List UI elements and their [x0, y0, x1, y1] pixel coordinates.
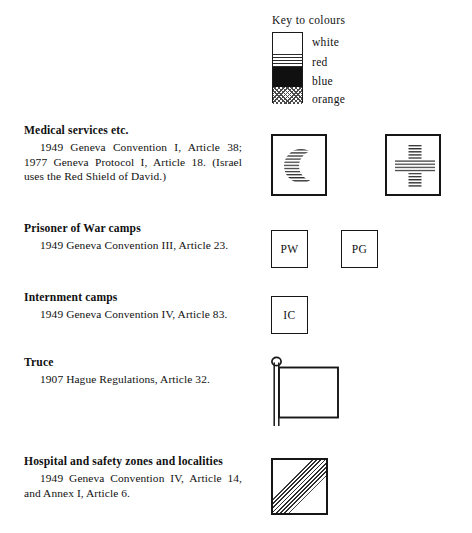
- entry-text-truce: Truce 1907 Hague Regulations, Article 32…: [24, 356, 242, 387]
- pg-marking: PG: [341, 230, 378, 268]
- key-title: Key to colours: [272, 14, 458, 26]
- diagonal-band-icon: [273, 460, 326, 513]
- hospital-zone-clip: [273, 460, 326, 513]
- key-to-colours: Key to colours white red blue orange: [268, 14, 458, 108]
- entry-citation: 1949 Geneva Convention III, Article 23.: [24, 238, 242, 253]
- pw-marking: PW: [271, 230, 308, 268]
- entry-heading: Prisoner of War camps: [24, 222, 242, 236]
- cross-icon: [395, 145, 435, 187]
- ic-marking: IC: [271, 296, 308, 334]
- entry-citation: 1949 Geneva Convention IV, Article 83.: [24, 307, 242, 322]
- key-swatch-stack: [272, 32, 303, 103]
- white-flag-symbol: [268, 356, 378, 428]
- ic-label: IC: [283, 309, 296, 321]
- entry-text-internment-camps: Internment camps 1949 Geneva Convention …: [24, 291, 242, 322]
- entry-text-hospital-and-safety-zones: Hospital and safety zones and localities…: [24, 455, 242, 500]
- entry-text-prisoner-of-war-camps: Prisoner of War camps 1949 Geneva Conven…: [24, 222, 242, 253]
- key-swatch-red: [273, 54, 302, 67]
- entry-citation: 1907 Hague Regulations, Article 32.: [24, 372, 242, 387]
- key-swatch-blue: [273, 67, 302, 87]
- entry-heading: Truce: [24, 356, 242, 370]
- key-swatch-orange: [273, 87, 302, 104]
- hospital-zone-symbol: [271, 458, 328, 515]
- protective-emblems-figure: Key to colours white red blue orange Med…: [0, 0, 472, 533]
- entry-citation: 1949 Geneva Convention IV, Article 14, a…: [24, 471, 242, 500]
- red-cross-symbol: [385, 134, 441, 196]
- key-swatch-white: [273, 33, 302, 54]
- entry-heading: Hospital and safety zones and localities: [24, 455, 242, 469]
- entry-heading: Medical services etc.: [24, 124, 242, 138]
- key-label-white: white: [312, 37, 339, 49]
- key-label-orange: orange: [312, 94, 345, 106]
- entry-heading: Internment camps: [24, 291, 242, 305]
- entry-citation: 1949 Geneva Convention I, Article 38; 19…: [24, 140, 242, 184]
- pw-label: PW: [280, 243, 298, 255]
- key-label-blue: blue: [312, 76, 333, 88]
- red-crescent-symbol: [271, 134, 327, 196]
- pg-label: PG: [352, 243, 368, 255]
- entry-text-medical-services: Medical services etc. 1949 Geneva Conven…: [24, 124, 242, 184]
- crescent-icon: [284, 143, 318, 189]
- key-label-red: red: [312, 57, 328, 69]
- key-body: white red blue orange: [268, 32, 458, 108]
